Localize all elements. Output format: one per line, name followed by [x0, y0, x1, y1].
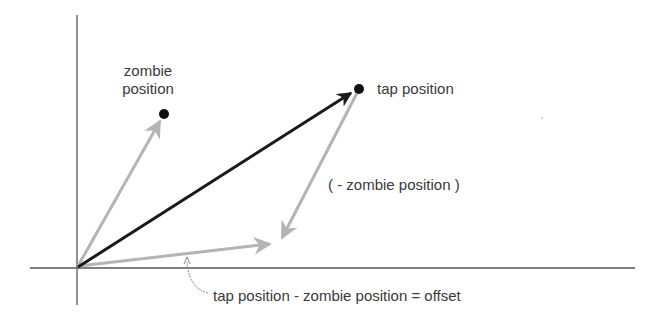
tap-position-label: tap position: [377, 80, 454, 98]
tap-point: [354, 84, 364, 94]
negative-zombie-label: ( - zombie position ): [328, 176, 460, 194]
vector-diagram: [0, 0, 660, 323]
tap-position-vector: [78, 93, 351, 267]
zombie-label-line2: position: [116, 80, 180, 98]
zombie-position-label: zombie position: [116, 62, 180, 98]
zombie-point: [159, 109, 169, 119]
offset-equation-label: tap position - zombie position = offset: [213, 287, 461, 305]
stray-dot: [541, 117, 543, 119]
zombie-label-line1: zombie: [116, 62, 180, 80]
zombie-position-vector: [78, 121, 160, 266]
offset-pointer-curve: [187, 262, 208, 293]
